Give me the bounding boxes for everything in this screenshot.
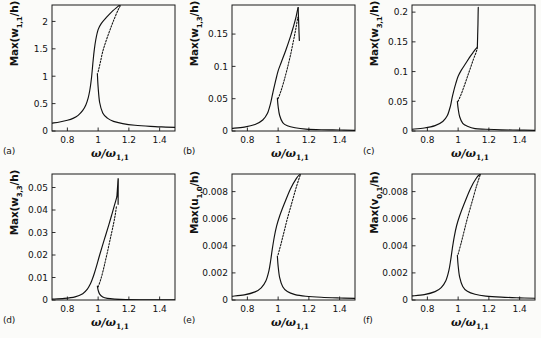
chart-panel-b: 0.811.21.400.050.10.15Max(w1,3/h)ω/ω1,1(… [180,0,360,169]
x-tick-label: 1 [455,304,461,314]
y-tick-label: 0.004 [382,241,408,251]
y-tick-label: 0.004 [202,241,228,251]
plot-frame [232,174,355,300]
plot-frame [412,174,535,300]
y-tick-label: 0 [222,126,228,136]
y-tick-label: 0.05 [28,183,48,193]
chart-panel-e: 0.811.21.400.0020.0040.0060.008Max(u1,0/… [180,169,360,338]
curve-unstable-branch [458,174,480,254]
panel-letter: (f) [363,315,373,325]
figure-multi-panel-frequency-response: 0.811.21.400.511.52Max(w1,1/h)ω/ω1,1(a)0… [0,0,541,338]
curve-peak-dropoff [298,8,299,41]
y-tick-label: 0.15 [208,29,228,39]
plot-area: 0.811.21.400.050.10.150.2 [360,0,540,169]
y-axis-label: Max(w3,1/h) [368,0,383,94]
plot-area: 0.811.21.400.0020.0040.0060.008 [360,169,540,338]
y-tick-label: 0 [42,295,48,305]
x-tick-label: 1.4 [332,304,347,314]
x-tick-label: 0.8 [240,135,255,145]
curve-unstable-branch [278,17,298,98]
y-tick-label: 0 [402,126,408,136]
chart-panel-d: 0.811.21.400.010.020.030.040.05Max(w3,3/… [0,169,180,338]
x-axis-label: ω/ω1,1 [400,147,540,162]
y-tick-label: 0.1 [394,67,408,77]
y-tick-label: 0.5 [34,99,48,109]
curve-stable-lower-branch [232,8,298,129]
curve-stable-right-branch [457,101,535,130]
y-tick-label: 0.02 [28,250,48,260]
y-axis-label: Max(w1,3/h) [188,0,203,94]
x-tick-label: 1.4 [332,135,347,145]
y-tick-label: 0.006 [382,214,408,224]
x-axis-label: ω/ω1,1 [400,316,540,331]
y-tick-label: 0.05 [208,94,228,104]
x-tick-label: 0.8 [420,135,435,145]
x-axis-label: ω/ω1,1 [40,316,180,331]
y-tick-label: 0.002 [382,268,408,278]
curve-stable-upper-right-branch [97,73,175,127]
x-tick-label: 1.2 [482,304,496,314]
y-tick-label: 0.1 [214,62,228,72]
chart-panel-a: 0.811.21.400.511.52Max(w1,1/h)ω/ω1,1(a) [0,0,180,169]
x-tick-label: 1.2 [302,135,316,145]
x-tick-label: 1.2 [302,304,316,314]
plot-frame [412,5,535,131]
curve-unstable-branch [278,175,300,255]
y-tick-label: 0.05 [388,97,408,107]
y-tick-label: 0.002 [202,268,228,278]
curve-stable-right-branch [97,286,175,300]
y-tick-label: 0.15 [388,37,408,47]
chart-panel-c: 0.811.21.400.050.10.150.2Max(w3,1/h)ω/ω1… [360,0,540,169]
y-tick-label: 0.008 [202,187,228,197]
x-tick-label: 0.8 [420,304,435,314]
plot-area: 0.811.21.400.0020.0040.0060.008 [180,169,360,338]
x-tick-label: 1.4 [152,304,167,314]
y-tick-label: 0.03 [28,228,48,238]
y-tick-label: 0 [402,295,408,305]
y-tick-label: 0.008 [382,187,408,197]
curve-vertical-jump [477,7,478,47]
plot-frame [232,5,355,131]
y-tick-label: 2 [42,17,48,27]
curve-stable-lower-branch [52,197,117,299]
x-tick-label: 0.8 [60,135,75,145]
plot-frame [52,174,175,300]
x-tick-label: 1 [275,135,281,145]
curve-stable-lower-branch [52,5,120,123]
x-tick-label: 1.4 [152,135,167,145]
curve-jagged-spike [117,179,118,205]
y-tick-label: 0 [222,295,228,305]
x-tick-label: 1.2 [482,135,496,145]
y-tick-label: 0.01 [28,273,48,283]
curve-stable-right-branch [457,255,535,298]
x-tick-label: 1.2 [122,304,136,314]
plot-area: 0.811.21.400.511.52 [0,0,180,169]
curve-stable-lower-branch [412,174,480,296]
chart-panel-f: 0.811.21.400.0020.0040.0060.008Max(v0,1/… [360,169,540,338]
x-tick-label: 1.2 [122,135,136,145]
curve-unstable-branch [98,206,116,287]
y-tick-label: 1.5 [34,44,48,54]
curve-stable-lower-branch [232,174,300,296]
y-tick-label: 1 [42,72,48,82]
x-tick-label: 1 [275,304,281,314]
curve-stable-right-branch [277,98,355,130]
y-axis-label: Max(w1,1/h) [8,0,23,94]
y-tick-label: 0.04 [28,205,48,215]
x-tick-label: 1 [455,135,461,145]
x-axis-label: ω/ω1,1 [40,147,180,162]
y-axis-label: Max(v0,1/h) [368,143,383,263]
y-tick-label: 0 [42,126,48,136]
panel-letter: (d) [3,315,15,325]
curve-unstable-branch [98,6,120,72]
curve-unstable-branch [458,48,477,101]
curve-stable-lower-branch [412,47,477,129]
x-axis-label: ω/ω1,1 [220,316,360,331]
plot-area: 0.811.21.400.050.10.15 [180,0,360,169]
x-axis-label: ω/ω1,1 [220,147,360,162]
curve-stable-right-branch [277,256,355,298]
y-tick-label: 0.006 [202,214,228,224]
x-tick-label: 0.8 [60,304,75,314]
x-tick-label: 1 [95,135,101,145]
y-axis-label: Max(w3,3/h) [8,143,23,263]
